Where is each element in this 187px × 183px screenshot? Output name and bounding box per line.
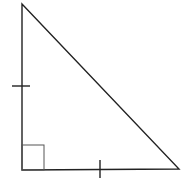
triangle-diagram [0,0,187,183]
right-triangle [22,4,179,170]
right-angle-marker [22,145,44,170]
